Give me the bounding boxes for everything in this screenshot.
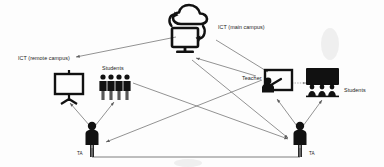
classroom-audience-icon[interactable]: Students bbox=[306, 68, 366, 97]
ict-main-campus-node[interactable]: ICT (main campus) bbox=[169, 5, 264, 53]
teacher-presenting-icon[interactable]: Teacher bbox=[242, 70, 292, 93]
edge-ictmain-to-teacher bbox=[216, 40, 268, 72]
student-figure bbox=[115, 74, 122, 100]
students-main-label: Students bbox=[344, 87, 366, 93]
projector-screen-icon[interactable] bbox=[55, 70, 83, 104]
audience-figure bbox=[318, 85, 326, 96]
audience-figure bbox=[308, 85, 316, 96]
ict-remote-campus-label: ICT (remote campus) bbox=[18, 55, 70, 61]
ta-main-label: TA bbox=[309, 151, 315, 156]
students-remote-label: Students bbox=[102, 65, 124, 71]
student-group-icon[interactable]: Students bbox=[99, 65, 130, 100]
cloud-icon bbox=[173, 5, 207, 24]
edge-teacher-to-ictmain bbox=[196, 58, 256, 76]
student-figure bbox=[99, 74, 106, 100]
monitor-icon bbox=[172, 28, 198, 53]
ta-main-node[interactable]: TA bbox=[294, 122, 316, 157]
edge-taremote-to-projector bbox=[70, 103, 90, 126]
ict-remote-campus-node[interactable]: ICT (remote campus) bbox=[18, 55, 70, 61]
ta-remote-label: TA bbox=[77, 151, 83, 156]
audience-figure bbox=[328, 85, 336, 96]
student-figure bbox=[107, 74, 114, 100]
student-figure bbox=[123, 74, 130, 100]
diagram-svg: ICT (main campus) ICT (remote campus) St… bbox=[0, 0, 384, 167]
ta-remote-node[interactable]: TA bbox=[77, 122, 99, 157]
edge-layer bbox=[70, 37, 322, 157]
edge-taremote-to-studentsremote bbox=[95, 102, 114, 126]
scan-artifact bbox=[174, 28, 339, 167]
edge-tamain-to-studentsmain bbox=[303, 100, 322, 126]
edge-ictmain-to-tamain bbox=[192, 60, 288, 138]
teacher-label: Teacher bbox=[242, 75, 262, 81]
edge-tamain-to-teacher bbox=[277, 99, 297, 126]
diagram-canvas: ICT (main campus) ICT (remote campus) St… bbox=[0, 0, 384, 167]
ict-main-campus-label: ICT (main campus) bbox=[218, 24, 265, 30]
edge-ictmain-to-ictremote bbox=[76, 37, 176, 57]
